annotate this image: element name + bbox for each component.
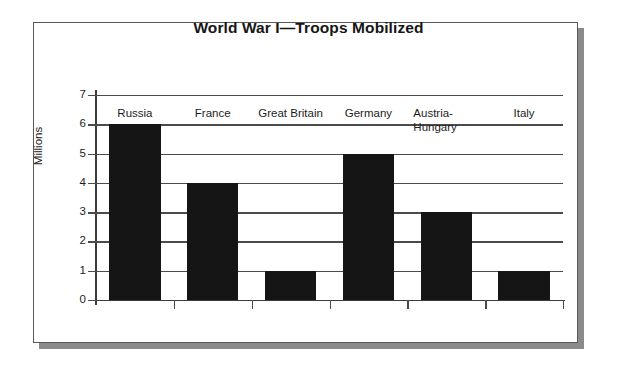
gridline-2 bbox=[96, 241, 563, 242]
y-tick-0 bbox=[88, 300, 96, 301]
x-tick-2 bbox=[330, 300, 331, 309]
x-axis-label-russia: Russia bbox=[96, 106, 174, 120]
y-tick-3 bbox=[88, 212, 96, 213]
y-tick-label-6: 6 bbox=[66, 118, 86, 130]
gridline-7 bbox=[96, 95, 563, 96]
y-tick-label-3: 3 bbox=[66, 206, 86, 218]
y-tick-6 bbox=[88, 124, 96, 125]
bar-italy bbox=[498, 271, 549, 300]
x-tick-1 bbox=[252, 300, 253, 309]
y-tick-label-7: 7 bbox=[66, 89, 86, 101]
y-tick-label-2: 2 bbox=[66, 235, 86, 247]
bar-great-britain bbox=[265, 271, 316, 300]
y-tick-7 bbox=[88, 95, 96, 96]
chart-title: World War I—Troops Mobilized bbox=[0, 19, 617, 37]
gridline-1 bbox=[96, 271, 563, 272]
x-tick-4 bbox=[485, 300, 486, 309]
y-tick-1 bbox=[88, 271, 96, 272]
bar-france bbox=[187, 183, 238, 300]
bar-russia bbox=[109, 124, 160, 300]
gridline-3 bbox=[96, 212, 563, 213]
gridline-6 bbox=[96, 124, 563, 125]
x-axis-label-france: France bbox=[174, 106, 252, 120]
bar-austria-hungary bbox=[421, 212, 472, 300]
y-tick-5 bbox=[88, 154, 96, 155]
gridline-5 bbox=[96, 154, 563, 155]
x-tick-5 bbox=[563, 300, 564, 309]
x-tick-3 bbox=[407, 300, 408, 309]
y-tick-label-4: 4 bbox=[66, 177, 86, 189]
y-axis-label: Millions bbox=[32, 86, 44, 206]
gridline-4 bbox=[96, 183, 563, 184]
y-tick-label-5: 5 bbox=[66, 148, 86, 160]
x-axis-label-austria-hungary: Austria-Hungary bbox=[413, 106, 491, 134]
plot-area: 01234567RussiaFranceGreat BritainGermany… bbox=[96, 95, 563, 300]
y-tick-4 bbox=[88, 183, 96, 184]
y-tick-label-0: 0 bbox=[66, 294, 86, 306]
x-tick-0 bbox=[174, 300, 175, 309]
y-tick-label-1: 1 bbox=[66, 265, 86, 277]
x-axis-label-germany: Germany bbox=[330, 106, 408, 120]
x-axis-label-great-britain: Great Britain bbox=[252, 106, 330, 120]
bar-germany bbox=[343, 154, 394, 300]
y-tick-2 bbox=[88, 241, 96, 242]
x-axis-label-italy: Italy bbox=[485, 106, 563, 120]
